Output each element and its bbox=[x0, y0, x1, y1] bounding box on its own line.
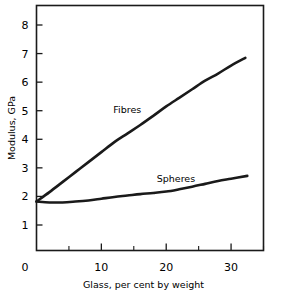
modulus-vs-glass-chart: 123456780102030Glass, per cent by weight… bbox=[0, 0, 283, 298]
y-axis-tick-label: 1 bbox=[22, 219, 29, 232]
y-axis-tick-label: 4 bbox=[22, 133, 29, 146]
x-axis-title: Glass, per cent by weight bbox=[83, 279, 204, 290]
x-axis-tick-label: 20 bbox=[159, 261, 173, 274]
y-axis-tick-label: 2 bbox=[22, 190, 29, 203]
chart-container: 123456780102030Glass, per cent by weight… bbox=[0, 0, 283, 298]
y-axis-tick-label: 3 bbox=[22, 162, 29, 175]
y-axis-tick-label: 7 bbox=[22, 48, 29, 61]
series-label-spheres: Spheres bbox=[157, 173, 195, 184]
plot-frame bbox=[37, 6, 264, 251]
y-axis-tick-label: 8 bbox=[22, 19, 29, 32]
y-axis-origin-label: 0 bbox=[22, 261, 29, 274]
x-axis-tick-label: 30 bbox=[224, 261, 238, 274]
x-axis-tick-label: 10 bbox=[94, 261, 108, 274]
y-axis-tick-label: 6 bbox=[22, 76, 29, 89]
series-label-fibres: Fibres bbox=[113, 104, 141, 115]
y-axis-title: Modulus, GPa bbox=[6, 96, 17, 160]
y-axis-tick-label: 5 bbox=[22, 105, 29, 118]
